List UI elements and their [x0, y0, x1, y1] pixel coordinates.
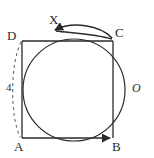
circle-o	[23, 39, 125, 141]
label-vertex-a: A	[14, 140, 23, 153]
label-vertex-c: C	[115, 26, 124, 39]
label-point-x: X	[49, 13, 58, 26]
label-center-o: O	[132, 82, 141, 94]
dashed-arc-d-to-a	[13, 42, 21, 137]
diagram-canvas	[0, 0, 154, 158]
geometry-figure: D C A B X O 4	[0, 0, 154, 158]
label-length-4: 4	[6, 82, 12, 93]
label-vertex-b: B	[112, 140, 121, 153]
label-vertex-d: D	[7, 29, 16, 42]
